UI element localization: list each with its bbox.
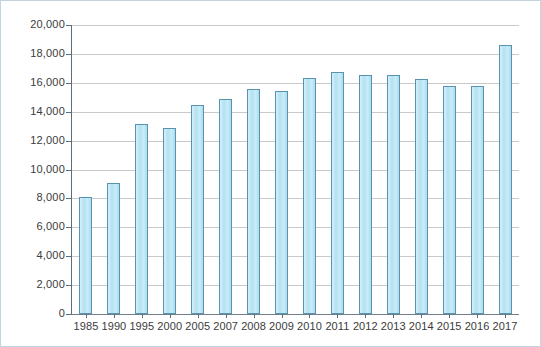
x-tick-mark [393, 314, 394, 318]
bar-2007 [219, 99, 232, 314]
x-tick-mark [142, 314, 143, 318]
y-tick-mark [66, 227, 71, 228]
y-tick-label: 14,000 [7, 106, 65, 117]
chart-figure: 20,00018,00016,00014,00012,00010,0008,00… [0, 0, 541, 347]
y-tick-mark [66, 198, 71, 199]
x-tick-mark [114, 314, 115, 318]
x-tick-mark [226, 314, 227, 318]
plot-area [72, 25, 519, 314]
x-tick-mark [365, 314, 366, 318]
bar-2015 [443, 86, 456, 314]
bar-2010 [303, 78, 316, 314]
y-tick-label: 8,000 [7, 192, 65, 203]
y-tick-label: 12,000 [7, 135, 65, 146]
x-tick-mark [309, 314, 310, 318]
bar-2009 [275, 91, 288, 314]
y-tick-label: 18,000 [7, 48, 65, 59]
bar-2011 [331, 72, 344, 314]
y-tick-mark [66, 141, 71, 142]
bar-2014 [415, 79, 428, 314]
x-tick-mark [337, 314, 338, 318]
y-tick-label: 4,000 [7, 250, 65, 261]
y-tick-label: 0 [7, 308, 65, 319]
y-tick-mark [66, 54, 71, 55]
x-tick-mark [198, 314, 199, 318]
y-tick-label: 20,000 [7, 19, 65, 30]
y-axis-labels: 20,00018,00016,00014,00012,00010,0008,00… [1, 1, 65, 347]
x-tick-mark [449, 314, 450, 318]
x-tick-mark [282, 314, 283, 318]
bar-1990 [107, 183, 120, 314]
bar-2000 [163, 128, 176, 314]
x-tick-mark [505, 314, 506, 318]
y-tick-mark [66, 83, 71, 84]
y-tick-mark [66, 285, 71, 286]
gridline-18000 [72, 54, 519, 55]
y-tick-mark [66, 314, 71, 315]
x-tick-mark [477, 314, 478, 318]
gridline-0 [72, 314, 519, 315]
bar-2016 [471, 86, 484, 314]
gridline-20000 [72, 25, 519, 26]
gridline-16000 [72, 83, 519, 84]
x-tick-mark [86, 314, 87, 318]
y-tick-label: 6,000 [7, 221, 65, 232]
bar-1995 [135, 124, 148, 314]
bar-2005 [191, 105, 204, 314]
y-tick-mark [66, 25, 71, 26]
y-tick-mark [66, 170, 71, 171]
y-tick-label: 16,000 [7, 77, 65, 88]
bar-2012 [359, 75, 372, 314]
x-tick-label-2017: 2017 [489, 320, 521, 332]
y-tick-label: 2,000 [7, 279, 65, 290]
y-tick-label: 10,000 [7, 164, 65, 175]
x-tick-mark [170, 314, 171, 318]
y-tick-mark [66, 112, 71, 113]
x-tick-mark [254, 314, 255, 318]
y-tick-mark [66, 256, 71, 257]
x-tick-mark [421, 314, 422, 318]
bar-2008 [247, 89, 260, 314]
bar-2017 [499, 45, 512, 314]
bar-1985 [79, 197, 92, 314]
bar-2013 [387, 75, 400, 314]
